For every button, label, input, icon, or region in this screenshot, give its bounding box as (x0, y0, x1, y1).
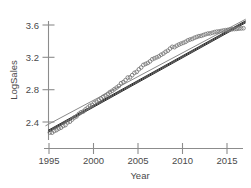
data-points (48, 26, 245, 134)
x-tick-label-2005: 2005 (127, 155, 148, 166)
y-tick-label-3-2: 3.2 (26, 52, 39, 63)
x-tick-label-2010: 2010 (172, 155, 193, 166)
regression-line (45, 19, 245, 126)
x-tick-labels: 1995 2000 2005 2010 2015 (38, 155, 237, 166)
y-axis-title: LogSales (8, 60, 19, 100)
y-tick-labels: 3.6 3.2 2.8 2.4 (26, 20, 39, 128)
x-tick-label-2000: 2000 (83, 155, 104, 166)
y-tick-label-2-4: 2.4 (26, 117, 39, 128)
x-tick-label-2015: 2015 (216, 155, 237, 166)
x-axis-title: Year (130, 170, 149, 181)
regression-line (48, 21, 246, 131)
y-tick-label-2-8: 2.8 (26, 84, 39, 95)
data-point (130, 73, 134, 77)
y-tick-label-3-6: 3.6 (26, 20, 39, 31)
scatter-chart: 3.6 3.2 2.8 2.4 1995 2000 2005 2010 2015… (0, 0, 251, 188)
x-tick-label-1995: 1995 (38, 155, 59, 166)
